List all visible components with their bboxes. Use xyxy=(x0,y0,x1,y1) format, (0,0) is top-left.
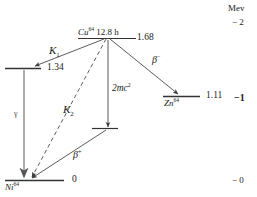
transition-label-k2: K2 xyxy=(63,104,74,118)
transition-line-k1 xyxy=(35,39,104,66)
nuclide-symbol-ni: Ni xyxy=(5,182,14,192)
energy-axis-tick-0: − 0 xyxy=(232,176,244,185)
beta-plus-sign: + xyxy=(78,148,82,155)
level-label-ni64: Ni64 xyxy=(5,182,19,192)
restmass-exponent: 2 xyxy=(128,82,131,88)
energy-axis-tick-1: −1 xyxy=(234,93,245,103)
level-energy-1p34: 1.34 xyxy=(47,63,64,73)
energy-axis-unit: Mev xyxy=(228,4,245,13)
level-energy-zn64: 1.11 xyxy=(206,91,222,101)
transition-label-k1: K1 xyxy=(49,45,60,59)
transition-label-gamma: γ xyxy=(14,110,18,118)
k2-subscript: 2 xyxy=(70,110,73,117)
level-energy-cu64: 1.68 xyxy=(137,33,154,43)
halflife-cu64: 12.8 h xyxy=(96,27,119,37)
transition-label-beta-minus: β− xyxy=(152,54,160,65)
transition-label-2mc2: 2mc2 xyxy=(112,83,131,94)
nuclide-symbol-zn: Zn xyxy=(164,98,174,108)
decay-scheme-diagram: Cu64 12.8 h 1.68 1.34 Zn64 1.11 Ni64 0 K… xyxy=(0,0,257,197)
beta-minus-sign: − xyxy=(157,53,161,60)
level-energy-ni64: 0 xyxy=(72,175,77,185)
transition-line-beta-plus xyxy=(32,130,106,178)
transition-label-beta-plus: β+ xyxy=(73,149,81,160)
nuclide-mass-cu: 64 xyxy=(89,26,95,32)
level-label-zn64: Zn64 xyxy=(164,98,179,108)
restmass-letters: 2mc xyxy=(112,83,128,93)
nuclide-symbol-cu: Cu xyxy=(78,27,89,37)
level-label-cu64: Cu64 12.8 h xyxy=(78,27,119,37)
energy-axis-tick-2: − 2 xyxy=(232,18,244,27)
nuclide-mass-zn: 64 xyxy=(174,97,180,103)
nuclide-mass-ni: 64 xyxy=(14,181,20,187)
k1-subscript: 1 xyxy=(56,51,59,58)
